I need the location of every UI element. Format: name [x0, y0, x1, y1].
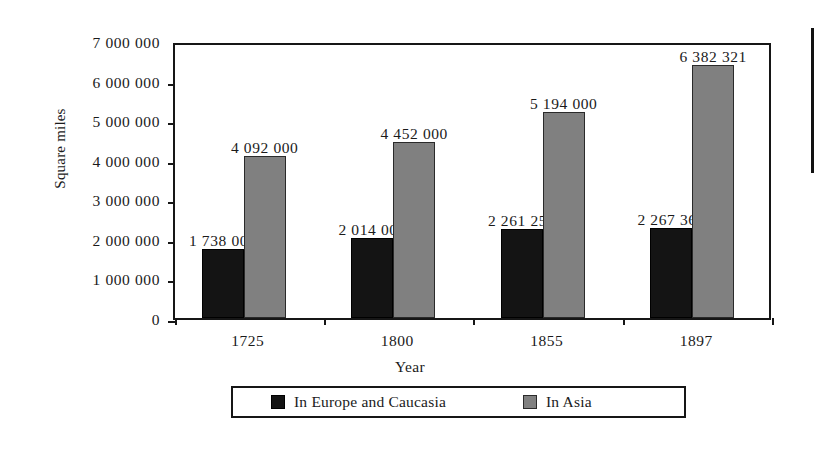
y-axis-tick-mark [168, 123, 175, 125]
x-axis-tick-mark [324, 318, 326, 325]
legend-label: In Europe and Caucasia [294, 394, 446, 410]
bar-value-label: 4 092 000 [205, 140, 325, 156]
y-axis-tick-mark [168, 163, 175, 165]
y-axis-tick-mark [168, 281, 175, 283]
bar-value-label: 6 382 321 [653, 49, 773, 65]
bar-1897-series-0 [650, 228, 692, 318]
bar-1800-series-1 [393, 142, 435, 318]
y-axis-tick-label: 0 [48, 312, 160, 328]
y-axis-tick-label: 6 000 000 [48, 75, 160, 91]
y-axis-tick-labels: 01 000 0002 000 0003 000 0004 000 0005 0… [48, 0, 160, 452]
bar-1897-series-1 [692, 65, 734, 318]
x-axis-tick-mark [473, 318, 475, 325]
bar-1725-series-0 [202, 249, 244, 318]
plot-area: 1 738 0004 092 0002 014 0004 452 0002 26… [173, 43, 771, 320]
legend-swatch-icon [523, 395, 537, 409]
chart-legend: In Europe and CaucasiaIn Asia [231, 386, 686, 418]
x-axis-tick-label: 1725 [188, 333, 308, 349]
x-axis-tick-label: 1800 [337, 333, 457, 349]
x-axis-tick-mark [623, 318, 625, 325]
bar-chart-figure: Square miles 01 000 0002 000 0003 000 00… [0, 0, 820, 452]
y-axis-tick-label: 5 000 000 [48, 114, 160, 130]
bar-1800-series-0 [351, 238, 393, 318]
y-axis-tick-mark [168, 84, 175, 86]
legend-entry-1[interactable]: In Asia [523, 394, 592, 410]
y-axis-tick-label: 1 000 000 [48, 272, 160, 288]
legend-swatch-icon [271, 395, 285, 409]
x-axis-tick-label: 1855 [487, 333, 607, 349]
y-axis-tick-label: 3 000 000 [48, 193, 160, 209]
x-axis-tick-mark [772, 318, 774, 325]
x-axis-tick-mark [175, 318, 177, 325]
bar-1725-series-1 [244, 156, 286, 318]
y-axis-tick-label: 4 000 000 [48, 154, 160, 170]
bar-1855-series-0 [501, 229, 543, 318]
x-axis-title: Year [0, 358, 820, 376]
plot-inner: 1 738 0004 092 0002 014 0004 452 0002 26… [175, 45, 769, 318]
y-axis-tick-mark [168, 321, 175, 323]
y-axis-tick-label: 7 000 000 [48, 35, 160, 51]
x-axis-tick-label: 1897 [636, 333, 756, 349]
y-axis-tick-label: 2 000 000 [48, 233, 160, 249]
legend-entry-0[interactable]: In Europe and Caucasia [271, 394, 446, 410]
y-axis-tick-mark [168, 202, 175, 204]
page-edge-rule [811, 28, 814, 173]
bar-1855-series-1 [543, 112, 585, 318]
bar-value-label: 5 194 000 [504, 96, 624, 112]
legend-label: In Asia [546, 394, 592, 410]
bar-value-label: 4 452 000 [354, 126, 474, 142]
